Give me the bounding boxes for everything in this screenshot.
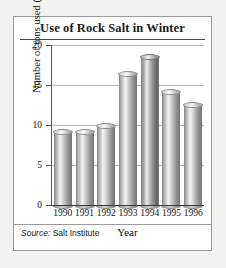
y-tick-label: 10: [33, 120, 43, 130]
source-note: Source: Salt Institute: [21, 228, 99, 238]
bar-body: [97, 126, 115, 206]
bar-body: [119, 74, 137, 206]
bar: [76, 132, 94, 206]
bar-body: [184, 105, 202, 206]
y-tick-label: 0: [37, 200, 42, 210]
bar-top-ellipse: [161, 89, 181, 95]
bar-body: [54, 132, 72, 206]
bars-layer: [52, 45, 204, 206]
bar-top-ellipse: [118, 71, 138, 77]
y-tick-label: 5: [37, 160, 42, 170]
chart-title: Use of Rock Salt in Winter: [14, 21, 211, 36]
y-tick-label: 15: [33, 80, 43, 90]
bar: [141, 57, 159, 206]
plot-area: Number of tons used (in millions) 051015…: [45, 45, 204, 221]
x-tick-label: 1996: [180, 208, 206, 218]
source-rule: [14, 224, 211, 225]
figure-panel: Use of Rock Salt in Winter Number of ton…: [13, 16, 212, 251]
bar: [97, 126, 115, 206]
bar-body: [141, 57, 159, 206]
bar-body: [162, 92, 180, 206]
x-axis-line: [51, 205, 204, 206]
bar-top-ellipse: [53, 129, 73, 135]
source-text: Salt Institute: [50, 228, 99, 238]
bar: [162, 92, 180, 206]
bar: [184, 105, 202, 206]
bar: [119, 74, 137, 206]
bar: [54, 132, 72, 206]
source-label: Source:: [21, 228, 50, 238]
bar-body: [76, 132, 94, 206]
y-tick-label: 20: [33, 40, 43, 50]
title-rule: [20, 39, 205, 40]
